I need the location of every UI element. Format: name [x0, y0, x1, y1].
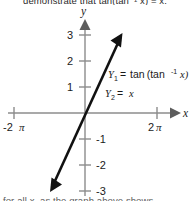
y-tick-label-1: 1: [67, 81, 73, 93]
y-axis-label: y: [80, 5, 87, 18]
x-tick-label-neg-2pi-symbol: π: [19, 121, 25, 133]
annotation-y1-body-open: tan (tan: [130, 68, 165, 80]
annotation-y1: Y 1 = tan (tan -1 x): [108, 68, 189, 82]
y-tick-label-neg-1: -1: [96, 133, 106, 145]
x-tick-label-2pi: 2 π: [148, 121, 162, 133]
annotation-y2-subscript: 2: [111, 94, 115, 101]
y-tick-label-2: 2: [67, 55, 73, 67]
x-tick-label-2pi-symbol: π: [156, 121, 162, 133]
y-axis-arrowhead-icon: [80, 19, 91, 30]
x-axis-label: x: [182, 107, 189, 119]
annotation-y2: Y 2 = x: [105, 87, 134, 101]
x-tick-label-neg-2pi: -2 π: [3, 121, 25, 133]
annotation-y1-subscript: 1: [114, 75, 118, 82]
annotation-y1-body-close: x): [179, 69, 189, 81]
annotation-y1-exponent: -1: [171, 68, 177, 75]
y-tick-label-3: 3: [67, 29, 73, 41]
x-tick-label-neg-2pi-number: -2: [3, 121, 13, 133]
y-tick-label-neg-2: -2: [96, 159, 106, 171]
annotation-y1-equals: =: [120, 68, 126, 80]
x-tick-label-2pi-number: 2: [148, 121, 154, 133]
annotation-y2-body-open: x: [128, 88, 134, 99]
cut-off-caption-bottom: for all x, as the graph above shows.: [0, 196, 190, 201]
coordinate-plot: y x 3 2 1 -1 -2 -3 -2 π 2 π Y 1 = tan (t…: [0, 0, 190, 201]
annotation-y2-equals: =: [117, 87, 123, 99]
x-axis-arrowhead-icon: [170, 108, 181, 119]
figure-container: demonstrate that tan(tan⁻¹ x) = x. y: [0, 0, 190, 201]
